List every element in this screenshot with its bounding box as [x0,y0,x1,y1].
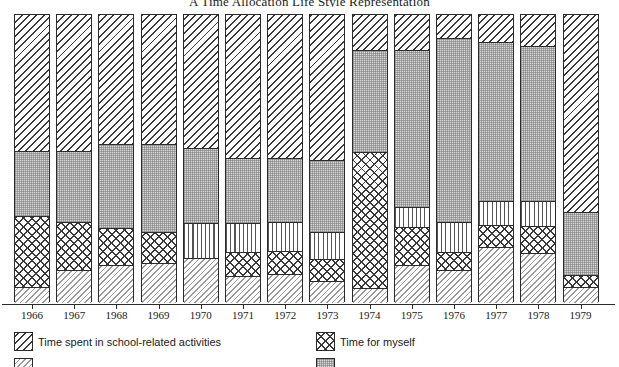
legend-label: Time for myself [340,336,415,348]
bar-segment [57,152,91,223]
x-axis-tick [454,305,455,309]
bar-segment [184,15,218,149]
bar-segment [353,153,387,289]
bar-segment [310,161,344,233]
x-axis-label-1979: 1979 [561,309,601,321]
legend-item[interactable] [14,358,38,367]
bar-segment [310,15,344,161]
x-axis-tick [538,305,539,309]
bar-segment [479,15,513,43]
legend-swatch-stipple [316,358,335,367]
bar-1970[interactable] [183,14,219,302]
bar-segment [15,217,49,288]
bar-segment [268,15,302,159]
x-axis-label-1976: 1976 [434,309,474,321]
bar-segment [142,15,176,145]
bar-segment [521,254,555,303]
bar-segment [479,43,513,202]
bar-1975[interactable] [394,14,430,302]
x-axis-label-1973: 1973 [307,309,347,321]
bar-segment [521,15,555,47]
bar-segment [57,223,91,271]
bar-segment [99,229,133,266]
bar-1972[interactable] [267,14,303,302]
bar-segment [353,289,387,303]
bar-segment [521,227,555,254]
bar-segment [15,288,49,303]
x-axis-tick [159,305,160,309]
x-axis-tick [496,305,497,309]
bar-1978[interactable] [520,14,556,302]
x-axis-tick [32,305,33,309]
chart-legend: Time spent in school-related activitiesT… [0,332,619,367]
bar-segment [564,288,598,303]
bar-segment [395,15,429,51]
bar-segment [184,224,218,259]
bar-1974[interactable] [352,14,388,302]
bar-segment [395,51,429,208]
x-axis-tick [370,305,371,309]
bar-segment [395,266,429,303]
bar-segment [184,259,218,303]
x-axis-label-1978: 1978 [518,309,558,321]
bar-segment [15,15,49,152]
x-axis-tick [327,305,328,309]
bar-segment [353,15,387,51]
bar-1971[interactable] [225,14,261,302]
plot-area [0,0,619,305]
bar-segment [142,233,176,264]
bar-1969[interactable] [141,14,177,302]
bar-segment [268,159,302,223]
legend-swatch-crosshatch [316,332,335,351]
bar-segment [99,266,133,303]
x-axis-label-1974: 1974 [350,309,390,321]
legend-item[interactable]: Time spent in school-related activities [14,332,221,351]
bar-1967[interactable] [56,14,92,302]
x-axis-tick [74,305,75,309]
bar-segment [142,145,176,233]
bar-segment [564,276,598,288]
bar-segment [184,149,218,224]
x-axis-tick [201,305,202,309]
bar-segment [479,202,513,226]
bar-1966[interactable] [14,14,50,302]
legend-label: Time spent in school-related activities [38,336,221,348]
bar-segment [437,39,471,223]
legend-item[interactable]: Time for myself [316,332,415,351]
x-axis-tick [243,305,244,309]
bar-segment [226,277,260,303]
legend-item[interactable] [316,358,340,367]
x-axis-label-1967: 1967 [54,309,94,321]
bar-segment [15,152,49,217]
bar-1968[interactable] [98,14,134,302]
bar-segment [226,15,260,159]
bar-segment [564,15,598,213]
bar-1976[interactable] [436,14,472,302]
bar-segment [353,51,387,153]
bar-segment [521,47,555,202]
x-axis-line [2,304,615,305]
bar-segment [479,226,513,248]
x-axis-tick [412,305,413,309]
x-axis-label-1977: 1977 [476,309,516,321]
x-axis-label-1971: 1971 [223,309,263,321]
bar-segment [437,223,471,253]
bar-segment [99,145,133,229]
bar-1977[interactable] [478,14,514,302]
x-axis-label-1966: 1966 [12,309,52,321]
bar-segment [310,233,344,260]
bar-segment [437,271,471,303]
bar-1979[interactable] [563,14,599,302]
x-axis-tick [116,305,117,309]
bar-segment [395,228,429,266]
x-axis-tick [581,305,582,309]
bar-segment [99,15,133,145]
bar-segment [268,223,302,252]
x-axis-tick [285,305,286,309]
bar-1973[interactable] [309,14,345,302]
bar-segment [521,202,555,227]
chart-root: A Time Allocation Life Style Representat… [0,0,619,367]
bar-segment [226,159,260,224]
bar-segment [57,15,91,152]
bar-segment [479,248,513,303]
